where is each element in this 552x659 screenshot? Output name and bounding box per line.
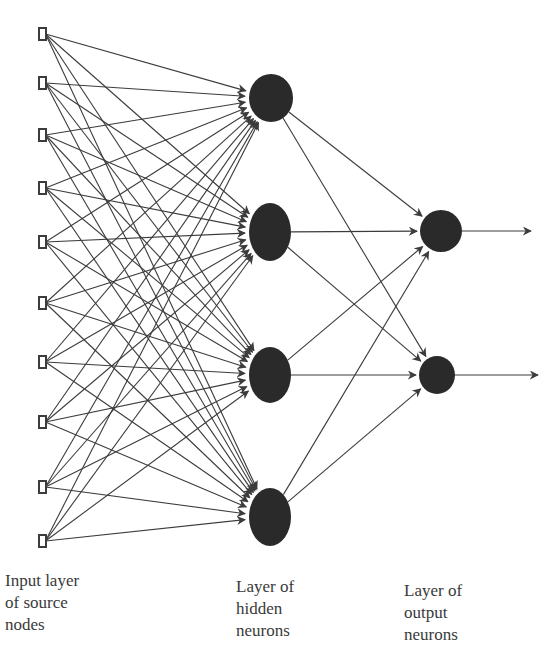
output-layer-label: Layer of output neurons (404, 580, 462, 646)
connection-input-2-hidden-4 (46, 83, 256, 490)
neural-network-diagram (0, 0, 552, 659)
hidden-neuron-2 (249, 203, 291, 261)
input-node-1 (39, 28, 46, 40)
input-layer-nodes (39, 28, 46, 547)
input-to-hidden-connections (46, 34, 259, 541)
input-node-5 (39, 236, 46, 248)
connection-input-1-hidden-1 (46, 34, 246, 91)
connection-input-6-hidden-3 (46, 303, 246, 367)
hidden-neuron-3 (249, 347, 291, 403)
hidden-neuron-1 (249, 74, 293, 122)
output-neuron-1 (420, 210, 462, 252)
connection-input-5-hidden-2 (46, 233, 246, 242)
connection-hidden-1-output-2 (283, 118, 426, 356)
connection-input-1-hidden-4 (46, 34, 257, 489)
connection-input-3-hidden-3 (46, 135, 251, 355)
output-neuron-2 (419, 356, 455, 394)
input-label-line-2: of source (5, 592, 79, 614)
output-arrows (455, 231, 538, 375)
connection-input-10-hidden-3 (46, 391, 249, 541)
connection-hidden-4-output-2 (288, 389, 421, 502)
input-node-10 (39, 535, 46, 547)
input-node-7 (39, 356, 46, 368)
output-label-line-2: output (404, 602, 462, 624)
connection-input-10-hidden-2 (46, 256, 253, 541)
hidden-to-output-connections (283, 112, 429, 502)
connection-hidden-1-output-1 (289, 112, 422, 216)
connection-hidden-2-output-1 (291, 231, 417, 232)
input-label-line-3: nodes (5, 614, 79, 636)
connection-input-9-hidden-2 (46, 253, 252, 487)
hidden-layer-label: Layer of hidden neurons (236, 576, 294, 642)
input-node-8 (39, 416, 46, 428)
connection-input-5-hidden-1 (46, 112, 249, 242)
hidden-label-line-1: Layer of (236, 576, 294, 598)
output-label-line-3: neurons (404, 624, 462, 646)
connection-hidden-3-output-1 (288, 246, 423, 360)
hidden-label-line-2: hidden (236, 598, 294, 620)
output-layer-neurons (419, 210, 462, 394)
connection-input-9-hidden-1 (46, 122, 258, 487)
connection-input-7-hidden-2 (46, 245, 248, 362)
input-label-line-1: Input layer (5, 570, 79, 592)
input-node-6 (39, 297, 46, 309)
output-label-line-1: Layer of (404, 580, 462, 602)
hidden-label-line-3: neurons (236, 620, 294, 642)
connection-input-3-hidden-1 (46, 102, 246, 135)
input-layer-label: Input layer of source nodes (5, 570, 79, 636)
input-node-3 (39, 129, 46, 141)
connection-input-10-hidden-4 (46, 520, 246, 541)
connection-input-2-hidden-1 (46, 83, 246, 96)
input-node-2 (39, 77, 46, 89)
connection-input-10-hidden-1 (46, 123, 259, 541)
connection-input-2-hidden-2 (46, 83, 248, 217)
input-node-4 (39, 182, 46, 194)
hidden-layer-neurons (249, 74, 293, 546)
input-node-9 (39, 481, 46, 493)
hidden-neuron-4 (249, 488, 291, 546)
connection-hidden-4-output-1 (283, 252, 428, 495)
